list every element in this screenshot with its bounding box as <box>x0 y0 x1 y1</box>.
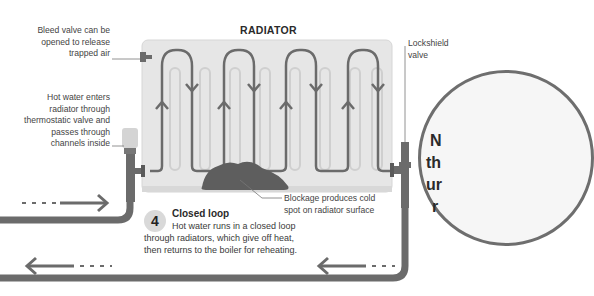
blockage-label: Blockage produces cold spot on radiator … <box>284 193 424 216</box>
side-callout-circle <box>418 70 594 246</box>
lockshield-valve <box>401 142 409 162</box>
side-callout-text: N th ur r <box>426 130 442 218</box>
hot-water-enters-label: Hot water enters radiator through thermo… <box>2 92 110 150</box>
bleed-valve-label: Bleed valve can be opened to release tra… <box>12 25 110 60</box>
radiator-title: RADIATOR <box>240 24 297 36</box>
flow-arrow-right-icon <box>22 195 107 211</box>
step-heading: Closed loop <box>172 208 229 219</box>
flow-arrow-left-icon <box>27 258 112 274</box>
thermostatic-valve-head <box>122 128 138 148</box>
flow-arrow-left-icon-2 <box>319 258 395 274</box>
inlet-pipe <box>0 198 130 220</box>
lockshield-valve-label: Lockshield valve <box>408 38 468 61</box>
step-body: Hot water runs in a closed loop through … <box>144 220 344 256</box>
